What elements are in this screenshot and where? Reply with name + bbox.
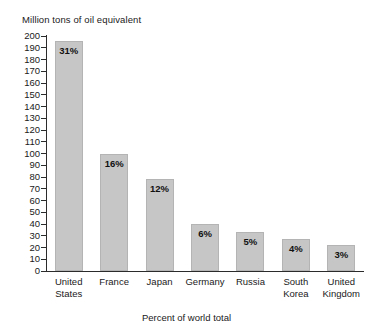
y-axis-tick-label: 170	[24, 67, 40, 77]
x-axis-title: Percent of world total	[0, 312, 373, 323]
x-axis-line	[46, 271, 364, 272]
x-axis-category-label: Japan	[137, 276, 182, 288]
y-axis-tick-label: 70	[29, 184, 40, 194]
y-axis-tick-label: 30	[29, 231, 40, 241]
y-axis-tick-label: 130	[24, 114, 40, 124]
bar: 31%	[55, 41, 83, 271]
x-axis-category-label: Russia	[228, 276, 273, 288]
bar-value-label: 6%	[192, 228, 218, 239]
plot-area: 31%16%12%6%5%4%3%	[46, 36, 366, 271]
y-axis-tick-label: 80	[29, 172, 40, 182]
y-axis-tick-label: 140	[24, 102, 40, 112]
y-axis-tick-label: 0	[35, 266, 40, 276]
bar: 12%	[146, 179, 174, 271]
y-axis-tick-label: 160	[24, 78, 40, 88]
y-axis-tick-label: 40	[29, 219, 40, 229]
x-axis-category-label: South Korea	[273, 276, 318, 299]
y-axis-tick-label: 100	[24, 149, 40, 159]
y-axis-tick-label: 180	[24, 55, 40, 65]
bar: 6%	[191, 224, 219, 271]
y-axis-tick-label: 120	[24, 125, 40, 135]
bar: 4%	[282, 239, 310, 271]
x-axis-category-label: Germany	[182, 276, 227, 288]
bar-value-label: 31%	[56, 45, 82, 56]
bar: 3%	[327, 245, 355, 271]
x-axis-category-label: United Kingdom	[319, 276, 364, 299]
bar-value-label: 3%	[328, 249, 354, 260]
y-axis-tick-label: 150	[24, 90, 40, 100]
y-axis-tick-label: 60	[29, 196, 40, 206]
y-axis-tick-label: 10	[29, 255, 40, 265]
y-axis-tick-label: 50	[29, 208, 40, 218]
y-axis-tick-label: 200	[24, 31, 40, 41]
y-axis-tick-label: 190	[24, 43, 40, 53]
bar: 16%	[100, 154, 128, 272]
y-axis-ticks: 2001901801701601501401301201101009080706…	[0, 0, 46, 334]
bar-value-label: 4%	[283, 243, 309, 254]
bar-value-label: 12%	[147, 183, 173, 194]
x-axis-category-label: France	[91, 276, 136, 288]
bar-value-label: 5%	[237, 236, 263, 247]
y-axis-tick-label: 90	[29, 161, 40, 171]
bar-chart: Million tons of oil equivalent 200190180…	[0, 0, 373, 334]
y-axis-tick-label: 110	[25, 137, 40, 147]
x-axis-category-label: United States	[46, 276, 91, 299]
bar: 5%	[236, 232, 264, 271]
y-axis-tick-label: 20	[29, 243, 40, 253]
bar-value-label: 16%	[101, 158, 127, 169]
